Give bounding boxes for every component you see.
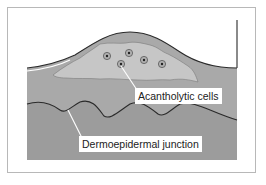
dermoepidermal-junction-label: Dermoepidermal junction: [79, 136, 202, 152]
intraepidermal-blister: [53, 42, 198, 82]
acantholytic-cells-label: Acantholytic cells: [135, 88, 222, 104]
cell-icon: [140, 56, 147, 63]
cell-icon: [125, 49, 132, 56]
cell-icon: [103, 52, 110, 59]
cell-icon: [158, 60, 165, 67]
skin-cross-section-diagram: [0, 0, 266, 185]
